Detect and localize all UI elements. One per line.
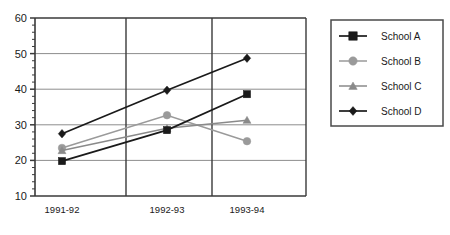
data-point <box>243 137 251 145</box>
y-tick-label: 40 <box>15 83 27 95</box>
x-tick-label: 1992-93 <box>150 204 185 215</box>
legend-label: School B <box>381 56 421 67</box>
y-tick-label: 50 <box>15 48 27 60</box>
chart-legend: School ASchool BSchool CSchool D <box>331 20 443 126</box>
legend-marker <box>349 57 357 65</box>
x-tick-label: 1993-94 <box>230 204 265 215</box>
x-axis: 1991-921992-931993-94 <box>45 204 265 215</box>
data-point <box>163 111 171 119</box>
y-tick-label: 30 <box>15 119 27 131</box>
y-tick-label: 10 <box>15 190 27 202</box>
chart-screenshot: 102030405060 1991-921992-931993-94 Schoo… <box>0 0 450 235</box>
line-chart: 102030405060 1991-921992-931993-94 Schoo… <box>0 0 450 235</box>
legend-marker <box>349 32 357 40</box>
data-point <box>58 158 65 165</box>
y-tick-label: 20 <box>15 154 27 166</box>
data-point <box>243 91 250 98</box>
legend-label: School C <box>381 81 422 92</box>
y-tick-label: 60 <box>15 12 27 24</box>
data-point <box>163 127 170 134</box>
x-tick-label: 1991-92 <box>45 204 80 215</box>
legend-label: School A <box>381 31 421 42</box>
legend-label: School D <box>381 106 422 117</box>
